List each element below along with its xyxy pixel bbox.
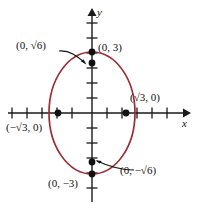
point-upper-focus	[89, 60, 96, 67]
label-right-vertex: (√3, 0)	[130, 92, 160, 103]
point-top-vertex	[89, 49, 96, 56]
label-lower-focus: (0, −√6)	[120, 165, 156, 176]
graph-canvas	[0, 0, 198, 217]
x-axis-label: x	[182, 118, 187, 129]
label-bottom-vertex: (0, −3)	[48, 178, 78, 189]
label-top-vertex: (0, 3)	[98, 42, 122, 53]
point-right-vertex	[123, 110, 130, 117]
label-left-vertex: (−√3, 0)	[6, 122, 42, 133]
ellipse-figure: (0, √6) (0, 3) (√3, 0) (−√3, 0) (0, −3) …	[0, 0, 198, 217]
label-upper-focus: (0, √6)	[16, 40, 46, 51]
point-lower-focus	[89, 159, 96, 166]
point-left-vertex	[55, 110, 62, 117]
y-axis-label: y	[97, 7, 102, 18]
point-bottom-vertex	[89, 171, 96, 178]
x-axis	[8, 109, 191, 118]
